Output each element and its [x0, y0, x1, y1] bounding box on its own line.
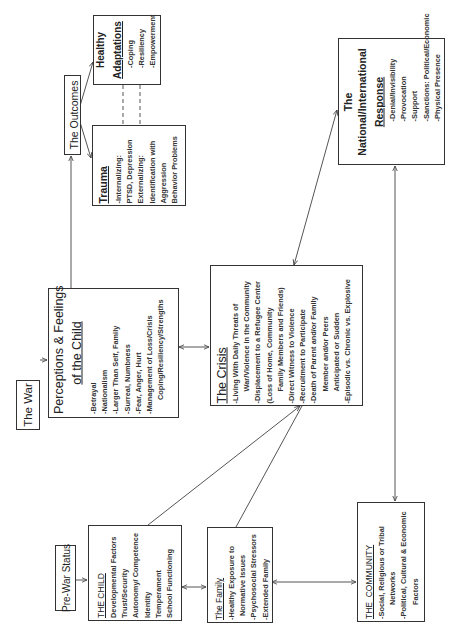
perceptions-item: -Larger Than Self, Family: [109, 292, 120, 414]
perceptions-item: -Surreal, Numbness: [121, 292, 132, 414]
the-war-title: The War: [21, 383, 35, 427]
crisis-item: -Episodic vs. Chronic vs. Explosive: [341, 268, 352, 403]
national-item: -Denial/Invisibility: [386, 42, 397, 161]
crisis-item: (Loss of Home, Community: [263, 268, 274, 403]
healthy-item: -Coping: [125, 18, 136, 82]
node-the-war: The War: [16, 380, 40, 430]
trauma-item: Aggression: [158, 128, 169, 203]
crisis-item: Anticipated or Sudden: [330, 268, 341, 403]
node-perceptions: Perceptions & Feelings of the Child -Bet…: [48, 288, 179, 418]
family-item: -Psychosocial Stressors: [248, 530, 259, 620]
child-item: Autonomy/ Competence: [130, 528, 141, 618]
node-the-family: The Family -Healthy Exposure to Normativ…: [207, 527, 273, 623]
community-item: Factors: [410, 505, 421, 619]
child-item: Identity: [142, 528, 153, 618]
perceptions-title-2: of the Child: [69, 321, 83, 384]
crisis-item: Member and/or Peers: [319, 268, 330, 403]
node-pre-war-status: Pre-War Status: [55, 545, 76, 611]
national-item: -Provocation: [397, 42, 408, 161]
family-item: -Extended Family: [260, 530, 271, 620]
trauma-item: Behavior Problems: [169, 128, 180, 203]
crisis-item: -Living With Daily Threats of: [229, 268, 240, 403]
healthy-item: -Resiliency: [136, 18, 147, 82]
perceptions-title-1: Perceptions & Feelings: [50, 292, 66, 414]
node-trauma: Trauma -Internalizing: PTSD, Depression …: [92, 125, 186, 206]
crisis-item: Family Members and Friends): [274, 268, 285, 403]
child-item: Trust/Security: [119, 528, 130, 618]
edge-family-crisis: [236, 406, 302, 527]
family-title: The Family: [214, 578, 224, 620]
national-item: -Physical Presence: [431, 42, 442, 161]
perceptions-item: -Betrayal: [87, 292, 98, 414]
node-national-response: The National/International Response -Den…: [338, 38, 445, 165]
community-item: -Social, Religious or Tribal: [376, 505, 387, 619]
healthy-title-2: Adaptations: [112, 21, 123, 79]
national-title-1: The: [340, 42, 354, 161]
crisis-title: The Crisis: [214, 347, 228, 403]
child-item: Developmental Factors: [108, 528, 119, 618]
edge-child-crisis: [148, 406, 300, 525]
child-item: Temperament: [153, 528, 164, 618]
healthy-item: -Empowerment: [147, 18, 158, 82]
edge-outcomes-healthy: [80, 62, 93, 106]
trauma-item: Identification with: [147, 128, 158, 203]
node-outcomes: The Outcomes: [64, 75, 81, 155]
child-item: School Functioning: [164, 528, 175, 618]
family-item: Normative Issues: [237, 530, 248, 620]
crisis-item: -Displacement to a Refugee Center: [251, 268, 262, 403]
trauma-item: Externalizing:: [135, 128, 146, 203]
node-crisis: The Crisis -Living With Daily Threats of…: [210, 265, 363, 406]
perceptions-item: -Nationalism: [98, 292, 109, 414]
perceptions-item: -Fear, Anger, Hurt: [132, 292, 143, 414]
outcomes-title: The Outcomes: [66, 81, 80, 150]
node-healthy-adaptations: Healthy Adaptations -Coping -Resiliency …: [93, 15, 161, 85]
family-item: -Healthy Exposure to: [226, 530, 237, 620]
national-title-2: National/International: [354, 42, 368, 161]
perceptions-item: Coping/Resiliency/Strengths: [154, 292, 165, 414]
child-title: THE CHILD: [96, 573, 106, 618]
node-the-community: THE COMMUNITY -Social, Religious or Trib…: [357, 502, 425, 622]
perceptions-item: -Management of Loss/Crisis: [143, 292, 154, 414]
edge-outcomes-trauma: [80, 122, 91, 158]
edge-crisis-national: [294, 110, 337, 265]
crisis-item: -Direct Witness to Violence: [285, 268, 296, 403]
community-item: -Political, Cultural & Economic: [398, 505, 409, 619]
trauma-item: -Internalizing:: [113, 128, 124, 203]
national-title-3: Response: [372, 76, 384, 126]
crisis-item: -Death of Parent and/or Family: [307, 268, 318, 403]
trauma-item: PTSD, Depression: [124, 128, 135, 203]
community-title: THE COMMUNITY: [364, 545, 374, 619]
national-item: -Support: [408, 42, 419, 161]
trauma-title: Trauma: [97, 166, 109, 203]
crisis-item: War/Violence in the Community: [240, 268, 251, 403]
crisis-item: -Recruitment to Participate: [296, 268, 307, 403]
national-item: -Sanctions: Political/Economic: [420, 42, 431, 161]
node-the-child: THE CHILD Developmental Factors Trust/Se…: [88, 525, 182, 621]
healthy-title-1: Healthy: [94, 18, 107, 82]
pre-war-title: Pre-War Status: [59, 544, 73, 612]
community-item: Networks: [387, 505, 398, 619]
